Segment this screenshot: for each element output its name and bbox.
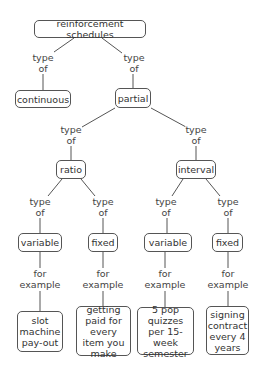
node-continuous: continuous: [15, 90, 71, 108]
link-label-for-example: forexample: [83, 268, 124, 290]
link-label-type-of: typeof: [155, 196, 176, 218]
link-label-type-of: typeof: [217, 196, 238, 218]
link-label-for-example: forexample: [145, 268, 186, 290]
link-label-type-of: typeof: [60, 124, 81, 146]
node-example-signing-contract: signing contract every 4 years: [206, 306, 249, 355]
node-ratio-fixed: fixed: [88, 233, 118, 252]
link-label-type-of: typeof: [123, 52, 144, 74]
node-interval-fixed: fixed: [212, 233, 243, 252]
link-label-for-example: forexample: [208, 268, 249, 290]
node-reinforcement-schedules: reinforcement schedules: [34, 20, 146, 38]
node-partial: partial: [115, 88, 151, 108]
link-label-for-example: forexample: [20, 268, 61, 290]
node-example-slot-machine: slot machine pay-out: [17, 311, 63, 352]
link-label-type-of: typeof: [185, 124, 206, 146]
node-interval-variable: variable: [144, 233, 192, 252]
link-label-type-of: typeof: [29, 196, 50, 218]
link-label-type-of: typeof: [92, 196, 113, 218]
node-ratio: ratio: [56, 160, 86, 179]
node-ratio-variable: variable: [18, 233, 62, 252]
link-label-type-of: typeof: [32, 52, 53, 74]
node-example-getting-paid: getting paid for every item you make: [76, 306, 131, 356]
node-interval: interval: [176, 160, 216, 179]
node-example-pop-quizzes: 5 pop quizzes per 15-week semester: [137, 307, 194, 355]
